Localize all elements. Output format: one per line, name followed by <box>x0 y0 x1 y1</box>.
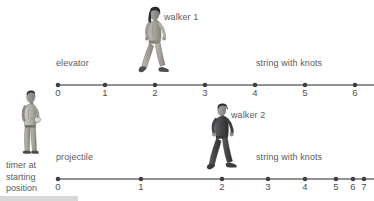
timer-caption: timer at starting position <box>6 160 37 195</box>
timer-caption-line-3: position <box>6 183 37 195</box>
top-tick-5: 5 <box>302 88 307 98</box>
walker-2-label: walker 2 <box>231 110 265 121</box>
bottom-tick-0: 0 <box>55 182 60 192</box>
top-track-left-label: elevator <box>56 58 89 69</box>
bottom-tick-1: 1 <box>138 182 143 192</box>
bottom-tick-3: 3 <box>265 182 270 192</box>
bottom-tick-2: 2 <box>219 182 224 192</box>
bottom-tick-4: 4 <box>302 182 307 192</box>
bottom-track-left-label: projectile <box>56 152 93 163</box>
bottom-track-right-label: string with knots <box>256 152 322 163</box>
top-tick-1: 1 <box>102 88 107 98</box>
timer-person <box>23 91 41 154</box>
top-tick-0: 0 <box>55 88 60 98</box>
timer-caption-line-1: timer at <box>6 160 37 172</box>
bottom-tick-5: 5 <box>333 182 338 192</box>
top-tick-6: 6 <box>352 88 357 98</box>
top-tick-2: 2 <box>152 88 157 98</box>
bottom-edge-band <box>0 196 78 201</box>
top-tick-4: 4 <box>252 88 257 98</box>
bottom-tick-6: 6 <box>350 182 355 192</box>
top-track-right-label: string with knots <box>256 58 322 69</box>
diagram-artwork <box>0 0 374 201</box>
bottom-number-line <box>56 177 374 182</box>
bottom-tick-7: 7 <box>361 182 366 192</box>
top-tick-3: 3 <box>202 88 207 98</box>
walker-1-label: walker 1 <box>164 12 198 23</box>
timer-caption-line-2: starting <box>6 172 37 184</box>
motion-diagram-figure: elevator string with knots walker 1 0 1 … <box>0 0 374 201</box>
